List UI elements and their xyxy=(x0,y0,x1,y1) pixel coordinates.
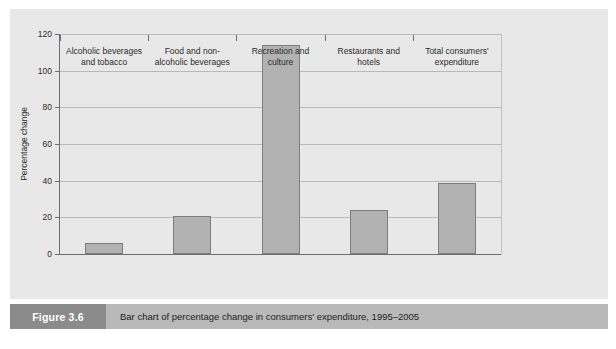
y-tick-mark xyxy=(55,181,60,182)
bar xyxy=(350,210,388,254)
y-tick-mark xyxy=(55,217,60,218)
bar xyxy=(262,45,300,254)
x-category-label: Recreation andculture xyxy=(229,46,331,68)
x-category-label: Food and non-alcoholic beverages xyxy=(141,46,243,68)
x-tick-mark xyxy=(60,35,61,41)
figure-number-badge: Figure 3.6 xyxy=(10,304,106,329)
x-category-label-line: and tobacco xyxy=(53,57,155,68)
bar xyxy=(173,216,211,255)
x-category-label: Restaurants andhotels xyxy=(318,46,420,68)
bar xyxy=(85,243,123,254)
x-category-label-line: alcoholic beverages xyxy=(141,57,243,68)
y-tick-label: 80 xyxy=(43,102,52,112)
x-tick-mark xyxy=(501,35,502,41)
y-tick-label: 60 xyxy=(43,139,52,149)
plot-area: 020406080100120 Alcoholic beveragesand t… xyxy=(59,34,501,255)
x-category-label-line: Food and non- xyxy=(141,46,243,57)
x-category-label-line: Restaurants and xyxy=(318,46,420,57)
x-tick-mark xyxy=(148,35,149,41)
y-tick-label: 100 xyxy=(38,66,52,76)
x-category-label-line: expenditure xyxy=(406,57,508,68)
x-category-label-line: Alcoholic beverages xyxy=(53,46,155,57)
x-category-label-line: Recreation and xyxy=(229,46,331,57)
y-tick-mark xyxy=(55,107,60,108)
y-tick-mark xyxy=(55,71,60,72)
y-axis-title: Percentage change xyxy=(19,107,29,181)
y-tick-mark xyxy=(55,144,60,145)
x-category-label: Total consumers'expenditure xyxy=(406,46,508,68)
figure-caption-bar: Figure 3.6 Bar chart of percentage chang… xyxy=(10,304,608,329)
x-tick-mark xyxy=(413,35,414,41)
gridline xyxy=(60,34,501,35)
figure-caption-text: Bar chart of percentage change in consum… xyxy=(120,304,419,329)
x-tick-mark xyxy=(236,35,237,41)
y-tick-label: 120 xyxy=(38,29,52,39)
y-tick-label: 0 xyxy=(47,249,52,259)
y-tick-label: 20 xyxy=(43,212,52,222)
bar xyxy=(438,183,476,255)
y-tick-mark xyxy=(55,254,60,255)
x-category-label-line: hotels xyxy=(318,57,420,68)
x-category-label-line: culture xyxy=(229,57,331,68)
chart-area: Percentage change 020406080100120 Alcoho… xyxy=(0,0,616,300)
x-category-label-line: Total consumers' xyxy=(406,46,508,57)
x-tick-mark xyxy=(325,35,326,41)
x-category-label: Alcoholic beveragesand tobacco xyxy=(53,46,155,68)
y-tick-label: 40 xyxy=(43,176,52,186)
